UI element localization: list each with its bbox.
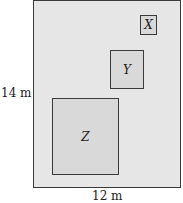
square-z-label: Z: [81, 130, 89, 144]
square-x: X: [140, 15, 157, 35]
square-x-label: X: [144, 18, 153, 32]
square-z: Z: [52, 98, 119, 175]
square-y-label: Y: [123, 63, 131, 77]
height-label: 14 m: [1, 86, 31, 100]
square-y: Y: [110, 50, 144, 89]
width-label: 12 m: [92, 189, 122, 203]
